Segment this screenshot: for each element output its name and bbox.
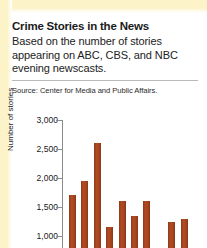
y-tick-mark: [56, 149, 62, 150]
chart-figure: Crime Stories in the News Based on the n…: [0, 0, 207, 248]
plot-area: [63, 103, 207, 248]
y-tick-mark: [56, 120, 62, 121]
bar: [143, 201, 150, 248]
bar: [119, 201, 126, 248]
divider-rule: [12, 80, 198, 81]
bar: [131, 216, 138, 248]
chart-headline: Crime Stories in the News: [12, 20, 207, 33]
chart-subtitle: Based on the number of stories appearing…: [12, 35, 192, 76]
y-tick-label: 1,500: [16, 202, 58, 212]
y-tick-label: 3,000: [16, 115, 58, 125]
y-axis-ticks: 3,0002,5002,0001,5001,000: [12, 103, 58, 248]
y-tick-mark: [56, 178, 62, 179]
y-tick-mark: [56, 207, 62, 208]
bar: [69, 195, 76, 248]
bar-chart: Number of stories 3,0002,5002,0001,5001,…: [12, 103, 207, 248]
bar: [94, 143, 101, 248]
source-note: Source: Center for Media and Public Affa…: [12, 86, 157, 95]
y-tick-label: 2,500: [16, 144, 58, 154]
bar: [181, 219, 188, 248]
y-tick-mark: [56, 236, 62, 237]
bar: [168, 222, 175, 248]
y-tick-label: 1,000: [16, 231, 58, 241]
bar: [106, 227, 113, 248]
y-tick-label: 2,000: [16, 173, 58, 183]
figure-content: Crime Stories in the News Based on the n…: [12, 11, 207, 248]
bar: [81, 181, 88, 248]
